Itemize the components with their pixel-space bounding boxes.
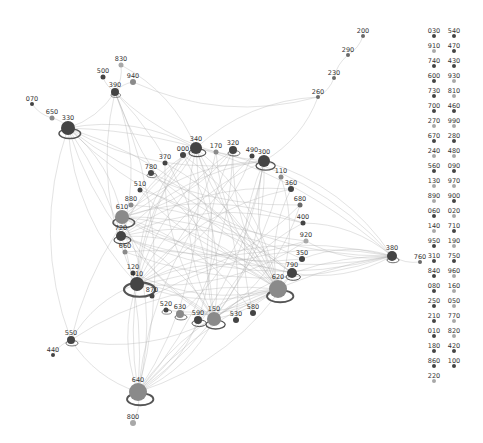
node-circle[interactable] [130,277,144,291]
node-circle[interactable] [101,75,106,80]
node-circle[interactable] [432,229,436,233]
node-circle[interactable] [452,349,456,353]
isolated-node-600[interactable]: 600 [428,72,440,84]
node-230[interactable]: 230 [328,69,340,81]
node-500[interactable]: 500 [97,67,109,80]
node-650[interactable]: 650 [46,108,58,121]
isolated-node-020[interactable]: 020 [448,207,460,219]
node-400[interactable]: 400 [297,213,309,226]
node-circle[interactable] [269,280,287,298]
node-circle[interactable] [432,289,436,293]
node-circle[interactable] [452,319,456,323]
node-circle[interactable] [452,229,456,233]
node-circle[interactable] [432,304,436,308]
isolated-node-270[interactable]: 270 [428,117,440,129]
node-circle[interactable] [432,49,436,53]
node-circle[interactable] [288,186,294,192]
node-circle[interactable] [432,139,436,143]
isolated-node-220[interactable]: 220 [428,372,440,384]
isolated-node-100[interactable]: 100 [448,357,460,369]
node-590[interactable]: 590 [192,309,204,325]
isolated-node-280[interactable]: 280 [448,132,460,144]
isolated-node-560[interactable]: 560 [428,162,440,174]
node-circle[interactable] [452,304,456,308]
isolated-node-310[interactable]: 310 [428,252,440,264]
node-circle[interactable] [67,336,75,344]
node-circle[interactable] [250,310,256,316]
node-circle[interactable] [123,250,128,255]
isolated-nodes-grid[interactable]: 0305409104707404306009307308107004602709… [428,27,460,384]
isolated-node-010[interactable]: 010 [428,327,440,339]
node-circle[interactable] [452,154,456,158]
node-510[interactable]: 510 [134,180,146,193]
node-circle[interactable] [129,383,147,401]
isolated-node-090[interactable]: 090 [448,162,460,174]
node-circle[interactable] [452,124,456,128]
isolated-node-890[interactable]: 890 [428,192,440,204]
node-circle[interactable] [432,109,436,113]
isolated-node-060[interactable]: 060 [428,207,440,219]
isolated-node-770[interactable]: 770 [448,312,460,324]
node-circle[interactable] [432,379,436,383]
node-830[interactable]: 830 [115,55,127,68]
node-circle[interactable] [129,203,134,208]
nodes-layer[interactable]: 8305009403900706503302002902302603400001… [26,27,426,427]
isolated-node-970[interactable]: 970 [448,177,460,189]
node-circle[interactable] [432,244,436,248]
node-circle[interactable] [452,334,456,338]
node-200[interactable]: 200 [357,27,369,39]
node-440[interactable]: 440 [47,346,59,358]
node-circle[interactable] [432,184,436,188]
node-circle[interactable] [61,121,75,135]
node-circle[interactable] [116,231,126,241]
isolated-node-710[interactable]: 710 [448,222,460,234]
node-490[interactable]: 490 [246,146,258,159]
isolated-node-430[interactable]: 430 [448,57,460,69]
node-800[interactable]: 800 [127,413,139,427]
node-circle[interactable] [164,308,169,313]
isolated-node-130[interactable]: 130 [428,177,440,189]
node-680[interactable]: 680 [294,195,306,208]
node-660[interactable]: 660 [119,242,131,255]
node-circle[interactable] [432,259,436,263]
isolated-node-840[interactable]: 840 [428,267,440,279]
isolated-node-950[interactable]: 950 [428,237,440,249]
node-circle[interactable] [452,109,456,113]
node-circle[interactable] [432,94,436,98]
isolated-node-420[interactable]: 420 [448,342,460,354]
node-circle[interactable] [452,139,456,143]
node-circle[interactable] [432,169,436,173]
node-circle[interactable] [432,319,436,323]
node-circle[interactable] [332,76,336,80]
isolated-node-700[interactable]: 700 [428,102,440,114]
node-circle[interactable] [432,79,436,83]
node-circle[interactable] [111,88,119,96]
node-circle[interactable] [452,364,456,368]
node-circle[interactable] [115,210,129,224]
node-circle[interactable] [30,102,34,106]
node-circle[interactable] [452,79,456,83]
node-circle[interactable] [130,79,136,85]
isolated-node-190[interactable]: 190 [448,237,460,249]
node-circle[interactable] [452,214,456,218]
isolated-node-750[interactable]: 750 [448,252,460,264]
node-circle[interactable] [432,274,436,278]
node-circle[interactable] [138,188,143,193]
node-circle[interactable] [452,259,456,263]
node-circle[interactable] [194,316,202,324]
node-circle[interactable] [298,203,303,208]
node-530[interactable]: 530 [230,310,242,324]
node-150[interactable]: 150 [207,305,221,327]
isolated-node-180[interactable]: 180 [428,342,440,354]
isolated-node-540[interactable]: 540 [448,27,460,39]
graph-svg[interactable]: 8305009403900706503302002902302603400001… [0,0,483,443]
node-circle[interactable] [387,251,397,261]
isolated-node-740[interactable]: 740 [428,57,440,69]
isolated-node-960[interactable]: 960 [448,267,460,279]
isolated-node-240[interactable]: 240 [428,147,440,159]
node-circle[interactable] [287,268,297,278]
network-graph[interactable]: 8305009403900706503302002902302603400001… [0,0,483,443]
node-circle[interactable] [279,175,284,180]
node-circle[interactable] [250,154,255,159]
node-circle[interactable] [346,53,350,57]
